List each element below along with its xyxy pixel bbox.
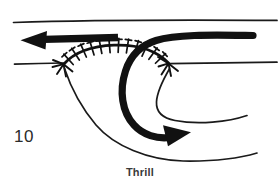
graft-inner-wall (156, 69, 247, 123)
figure-container: 10 Thrill (0, 0, 280, 188)
upper-vessel-wall-bottom-right (169, 62, 278, 63)
graft-flow-arrow (122, 35, 253, 146)
figure-number: 10 (14, 128, 34, 145)
upper-vessel-wall-bottom-left (15, 63, 64, 64)
figure-caption: Thrill (0, 166, 280, 178)
anastomosis-diagram (0, 0, 280, 188)
upper-vessel-wall-top (14, 20, 278, 22)
